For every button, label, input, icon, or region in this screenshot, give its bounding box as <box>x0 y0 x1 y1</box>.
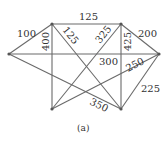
weight-label-B-E: 325 <box>93 23 114 45</box>
weight-label-B-F: 425 <box>122 32 133 51</box>
weight-label-E-D: 250 <box>124 55 146 73</box>
weight-label-A-E: 400 <box>40 32 51 51</box>
weight-label-A-F: 125 <box>60 24 81 46</box>
node-D <box>157 52 160 55</box>
node-E <box>50 107 53 110</box>
weight-label-F-D: 225 <box>141 83 160 94</box>
weight-label-B-D: 200 <box>138 28 157 39</box>
weight-label-A-B: 125 <box>79 11 98 22</box>
node-B <box>119 22 122 25</box>
figure-caption: (a) <box>77 123 89 133</box>
node-F <box>119 107 122 110</box>
graph-diagram: 125 100 200 400 125 325 425 300 250 225 … <box>0 0 168 142</box>
weight-label-C-A: 100 <box>17 28 36 39</box>
weight-label-C-F: 350 <box>88 96 110 114</box>
node-A <box>50 22 53 25</box>
node-C <box>7 52 10 55</box>
weight-label-C-D: 300 <box>99 56 118 67</box>
